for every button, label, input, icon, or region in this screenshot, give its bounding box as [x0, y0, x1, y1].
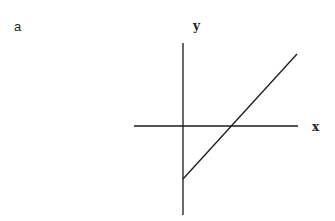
- y-axis-label: y: [192, 19, 201, 33]
- line-graph: y x: [0, 0, 335, 221]
- plotted-line: [183, 54, 297, 179]
- x-axis-label: x: [312, 120, 320, 134]
